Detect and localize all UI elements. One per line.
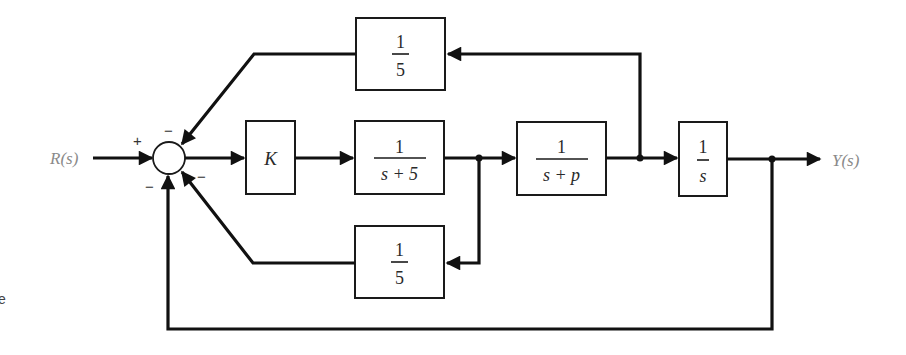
summing-junction: [153, 142, 185, 174]
inner-feedback-branch: [447, 158, 479, 263]
gain-block-k: K: [246, 121, 295, 194]
inner-feedback-numerator: 1: [395, 240, 404, 260]
plant2-denominator-p: p: [569, 165, 580, 185]
cropped-text-fragment: e: [0, 291, 6, 307]
integrator-numerator: 1: [699, 137, 708, 157]
plant1-block: 1 s + 5: [355, 121, 444, 194]
sign-plus-input: +: [133, 132, 142, 149]
plant1-numerator: 1: [395, 137, 404, 157]
gain-label: K: [263, 148, 278, 169]
plant2-denominator-s: s +: [543, 165, 571, 185]
sign-minus-lower: −: [197, 168, 206, 185]
top-feedback-block: 1 5: [356, 18, 445, 90]
sign-minus-top: −: [164, 122, 173, 139]
input-signal-label: R(s): [49, 149, 79, 168]
top-feedback-denominator: 5: [396, 60, 405, 80]
plant2-denominator: s + p: [543, 165, 580, 185]
inner-feedback-denominator: 5: [395, 268, 404, 288]
inner-feedback-block: 1 5: [355, 226, 444, 298]
integrator-block: 1 s: [679, 122, 727, 196]
plant2-block: 1 s + p: [517, 122, 606, 195]
integrator-denominator: s: [699, 166, 706, 186]
output-signal-label: Y(s): [832, 151, 860, 170]
sign-minus-unity: −: [145, 178, 154, 195]
block-diagram: e R(s) + − − − K 1 s + 5 1 5 1 s +: [0, 0, 906, 355]
top-feedback-numerator: 1: [396, 32, 405, 52]
plant1-denominator: s + 5: [381, 164, 418, 184]
plant2-numerator: 1: [557, 137, 566, 157]
